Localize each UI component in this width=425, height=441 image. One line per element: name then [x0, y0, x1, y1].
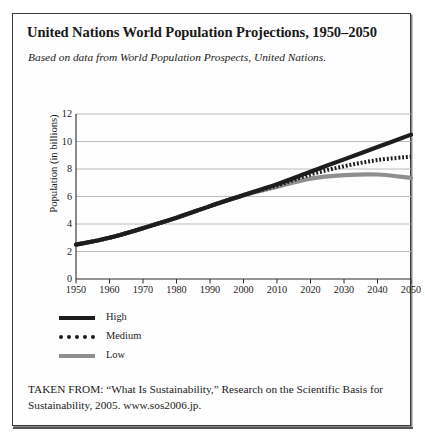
figure-subtitle: Based on data from World Population Pros…: [28, 51, 400, 63]
y-axis-tick-labels: 024681012: [45, 114, 72, 279]
y-axis-tick-label: 2: [48, 246, 72, 256]
y-axis-tick-label: 12: [48, 109, 72, 119]
legend-label: High: [106, 311, 127, 322]
legend-item-high: High: [59, 307, 259, 326]
chart-legend: HighMediumLow: [59, 307, 259, 364]
source-divider: [13, 427, 413, 429]
legend-item-low: Low: [59, 345, 259, 364]
legend-label: Medium: [106, 330, 141, 341]
figure-title: United Nations World Population Projecti…: [27, 24, 399, 41]
chart-region: Population (in billions) 024681012 19501…: [27, 86, 399, 294]
legend-swatch-low-icon: [59, 354, 95, 358]
legend-item-medium: Medium: [59, 326, 259, 345]
plot-svg: [76, 114, 411, 279]
legend-label: Low: [106, 349, 125, 360]
legend-swatch-medium-icon: [59, 335, 95, 339]
legend-swatch-high-icon: [59, 316, 95, 320]
figure-frame: United Nations World Population Projecti…: [12, 13, 411, 426]
y-axis-tick-label: 6: [48, 191, 72, 201]
y-axis-tick-label: 0: [48, 274, 72, 284]
y-axis-tick-label: 10: [48, 136, 72, 146]
x-axis-tick-labels: 1950196019701980199020002010202020302040…: [76, 285, 411, 301]
y-axis-tick-label: 4: [48, 219, 72, 229]
x-axis-tick-label: 2050: [391, 285, 425, 295]
source-note: TAKEN FROM: “What Is Sustainability,” Re…: [28, 381, 400, 413]
series-line-high: [76, 135, 411, 245]
plot-area: [76, 114, 411, 279]
y-axis-tick-label: 8: [48, 164, 72, 174]
